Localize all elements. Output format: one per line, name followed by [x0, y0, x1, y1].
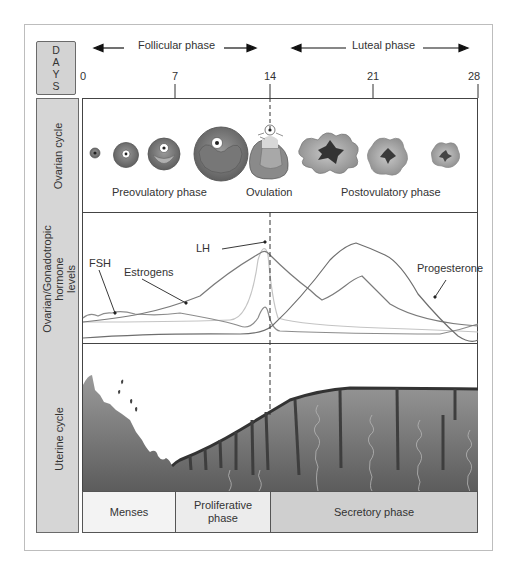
- ovulation-dashed-line: [0, 0, 509, 562]
- menses-label: Menses: [110, 506, 149, 519]
- proliferative-phase-cell: Proliferative phase: [175, 491, 271, 533]
- proliferative-label-line1: Proliferative: [194, 499, 252, 512]
- secretory-phase-cell: Secretory phase: [270, 491, 478, 533]
- menses-phase-cell: Menses: [82, 491, 176, 533]
- proliferative-label-line2: phase: [208, 512, 238, 525]
- secretory-label: Secretory phase: [334, 506, 414, 519]
